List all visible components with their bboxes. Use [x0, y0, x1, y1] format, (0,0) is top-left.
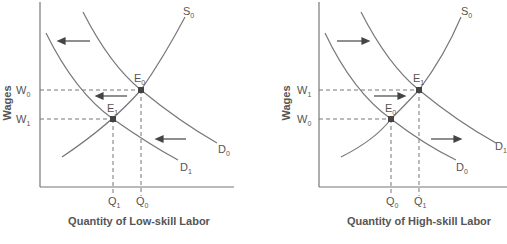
arrowhead-icon [156, 136, 163, 142]
x-axis-title: Quantity of High-skill Labor [347, 215, 492, 227]
label-q0: Q0 [136, 195, 149, 209]
arrowhead-icon [362, 38, 369, 44]
arrowhead-icon [398, 93, 405, 99]
x-axis-title: Quantity of Low-skill Labor [68, 215, 211, 227]
label-e0: E0 [385, 102, 396, 116]
arrowhead-icon [96, 93, 103, 99]
y-axis-title: Wages [1, 85, 13, 120]
equilibrium-point-e1 [416, 87, 422, 93]
supply-curve-s0 [62, 17, 185, 157]
label-q0: Q0 [386, 195, 399, 209]
label-q1: Q1 [108, 195, 121, 209]
panel-low-skill: S0 D0 D1 E0 E1 W0 W1 Q1 Q0 Wages Quantit… [1, 2, 234, 227]
label-w0: W0 [16, 84, 30, 98]
equilibrium-point-e0 [138, 87, 144, 93]
y-axis-title: Wages [280, 85, 292, 120]
label-d1: D1 [495, 140, 507, 154]
supply-curve-s0 [341, 17, 461, 157]
equilibrium-point-e1 [110, 116, 116, 122]
label-s0: S0 [183, 5, 194, 19]
equilibrium-point-e0 [388, 116, 394, 122]
panel-high-skill: S0 D0 D1 E1 E0 W1 W0 Q0 Q1 Wages Quantit… [280, 2, 507, 227]
label-e0: E0 [134, 72, 145, 86]
label-w1: W1 [297, 84, 311, 98]
label-s0: S0 [461, 5, 472, 19]
label-d0: D0 [456, 161, 468, 175]
label-d0: D0 [218, 143, 230, 157]
label-e1: E1 [413, 72, 424, 86]
label-d1: D1 [180, 161, 192, 175]
arrowhead-icon [58, 38, 65, 44]
arrowhead-icon [454, 136, 461, 142]
label-q1: Q1 [414, 195, 427, 209]
labor-market-diagrams: S0 D0 D1 E0 E1 W0 W1 Q1 Q0 Wages Quantit… [0, 0, 507, 244]
label-e1: E1 [107, 102, 118, 116]
diagram-canvas: S0 D0 D1 E0 E1 W0 W1 Q1 Q0 Wages Quantit… [0, 0, 507, 244]
label-w1: W1 [16, 113, 30, 127]
label-w0: W0 [297, 113, 311, 127]
